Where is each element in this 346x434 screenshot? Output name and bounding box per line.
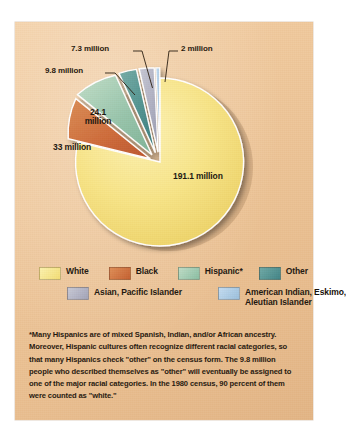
legend-label-black: Black — [136, 266, 158, 276]
pie-chart: 7.3 million 2 million 9.8 million 191.1 … — [15, 22, 313, 270]
callout-9-8-million: 9.8 million — [45, 66, 83, 75]
callout-2-million: 2 million — [181, 44, 213, 53]
leader-line-2-million — [165, 51, 178, 82]
legend-swatch-american-indian — [218, 287, 240, 300]
legend-item-black[interactable]: Black — [109, 266, 158, 280]
legend-label-american-indian-line2: Aleutian Islander — [245, 297, 312, 307]
callout-7-3-million: 7.3 million — [71, 44, 109, 53]
legend-row-secondary: Asian, Pacific Islander American Indian,… — [15, 287, 313, 308]
slice-label-black: 33 million — [53, 143, 91, 152]
figure-panel: 7.3 million 2 million 9.8 million 191.1 … — [15, 22, 313, 420]
legend-item-white[interactable]: White — [39, 266, 89, 280]
legend-swatch-white — [39, 267, 61, 280]
slice-label-hispanic-line2: million — [77, 117, 119, 126]
legend-swatch-black — [109, 267, 131, 280]
legend-label-asian-pacific-islander: Asian, Pacific Islander — [94, 287, 182, 297]
legend-item-asian-pacific-islander[interactable]: Asian, Pacific Islander — [67, 287, 182, 301]
legend-label-other: Other — [286, 266, 308, 276]
legend-label-white: White — [66, 266, 89, 276]
legend-item-other[interactable]: Other — [259, 266, 308, 280]
legend-item-hispanic[interactable]: Hispanic* — [178, 266, 243, 280]
slice-label-hispanic: 24.1 million — [77, 108, 119, 126]
legend-row-primary: White Black Hispanic* Other — [15, 266, 313, 280]
legend-swatch-other — [259, 267, 281, 280]
legend-swatch-hispanic — [178, 267, 200, 280]
legend-label-american-indian-line1: American Indian, Eskimo, — [245, 287, 346, 297]
chart-legend: White Black Hispanic* Other Asian, Pacif… — [15, 266, 313, 307]
legend-label-hispanic: Hispanic* — [205, 266, 243, 276]
legend-swatch-asian-pacific-islander — [67, 287, 89, 300]
slice-label-white: 191.1 million — [173, 172, 223, 181]
legend-item-american-indian[interactable]: American Indian, Eskimo, Aleutian Island… — [218, 287, 346, 308]
chart-footnote: *Many Hispanics are of mixed Spanish, In… — [29, 329, 301, 403]
legend-label-american-indian: American Indian, Eskimo, Aleutian Island… — [245, 287, 346, 308]
